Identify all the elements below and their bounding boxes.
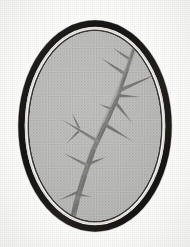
illustration-plate: A halftone printed illustration of a spi…	[0, 0, 190, 247]
oval-framed-thorn-branch-figure	[0, 0, 190, 247]
plate-halftone-overlay	[29, 31, 161, 221]
